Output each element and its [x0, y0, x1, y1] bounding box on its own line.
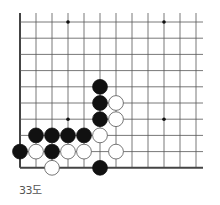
black-stone: [29, 128, 44, 143]
white-stone: [45, 160, 60, 175]
black-stone: [13, 144, 28, 159]
black-stone: [93, 160, 108, 175]
white-stone: [61, 144, 76, 159]
go-board: [0, 0, 220, 205]
white-stone: [29, 144, 44, 159]
white-stone: [93, 128, 108, 143]
star-point: [162, 20, 166, 24]
board-grid: [20, 13, 203, 168]
black-stone: [93, 79, 108, 94]
white-stone: [109, 112, 124, 127]
black-stone: [45, 128, 60, 143]
black-stone: [61, 128, 76, 143]
white-stone: [109, 96, 124, 111]
star-point: [66, 20, 70, 24]
white-stone: [109, 144, 124, 159]
diagram-caption: 33도: [19, 181, 42, 197]
black-stone: [93, 112, 108, 127]
white-stone: [77, 144, 92, 159]
star-point: [162, 117, 166, 121]
star-point: [66, 117, 70, 121]
black-stone: [45, 144, 60, 159]
black-stone: [77, 128, 92, 143]
black-stone: [93, 96, 108, 111]
